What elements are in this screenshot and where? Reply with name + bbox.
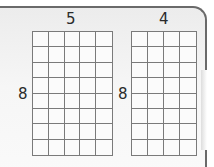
grid-cell xyxy=(164,124,180,139)
grid-cell xyxy=(49,63,65,78)
grid-cell xyxy=(164,94,180,109)
grid-cell xyxy=(49,47,65,62)
grid-cell xyxy=(180,63,196,78)
grid-cell xyxy=(164,140,180,155)
grid-a-column-count: 5 xyxy=(66,12,76,27)
grid-cell xyxy=(49,78,65,93)
grid-cell xyxy=(164,63,180,78)
grid-cell xyxy=(96,124,112,139)
grid-cell xyxy=(132,63,148,78)
grid-cell xyxy=(132,124,148,139)
grid-cell xyxy=(180,109,196,124)
grid-cell xyxy=(132,140,148,155)
grid-cell xyxy=(148,109,164,124)
grid-b-column-count: 4 xyxy=(159,12,169,27)
grid-cell xyxy=(33,47,49,62)
grid-cell xyxy=(164,47,180,62)
grid-cell xyxy=(49,94,65,109)
grid-cell xyxy=(49,140,65,155)
grid-cell xyxy=(132,78,148,93)
grid-cell xyxy=(33,78,49,93)
grid-cell xyxy=(132,94,148,109)
grid-cell xyxy=(49,109,65,124)
grid-cell xyxy=(96,78,112,93)
grid-cell xyxy=(148,124,164,139)
grid-cell xyxy=(180,124,196,139)
grid-b-4x8 xyxy=(131,31,197,156)
grid-cell xyxy=(180,47,196,62)
grid-cell xyxy=(164,32,180,47)
grid-cell xyxy=(49,32,65,47)
grid-cell xyxy=(33,94,49,109)
grid-cell xyxy=(65,124,81,139)
grid-cell xyxy=(80,32,96,47)
grid-cell xyxy=(65,63,81,78)
grid-cell xyxy=(80,94,96,109)
grid-cell xyxy=(80,47,96,62)
grid-cell xyxy=(148,63,164,78)
grid-cell xyxy=(164,109,180,124)
grid-cell xyxy=(96,63,112,78)
grid-cell xyxy=(80,124,96,139)
grid-cell xyxy=(65,109,81,124)
grid-cell xyxy=(80,140,96,155)
grid-cell xyxy=(65,78,81,93)
grid-cell xyxy=(148,32,164,47)
grid-b-row-count: 8 xyxy=(118,87,128,102)
grid-cell xyxy=(180,94,196,109)
grid-cell xyxy=(148,140,164,155)
grid-cell xyxy=(49,124,65,139)
grid-cell xyxy=(33,124,49,139)
grid-cell xyxy=(132,47,148,62)
grid-cell xyxy=(148,94,164,109)
grid-cell xyxy=(80,109,96,124)
grid-cell xyxy=(96,109,112,124)
grid-cell xyxy=(65,94,81,109)
grid-cell xyxy=(33,32,49,47)
grid-cell xyxy=(96,47,112,62)
grid-cell xyxy=(132,109,148,124)
grid-a-5x8 xyxy=(32,31,113,156)
grid-cell xyxy=(65,47,81,62)
grid-cell xyxy=(180,140,196,155)
grid-cell xyxy=(96,94,112,109)
grid-cell xyxy=(96,32,112,47)
grid-cell xyxy=(65,32,81,47)
grid-cell xyxy=(80,63,96,78)
grid-cell xyxy=(148,78,164,93)
grid-cell xyxy=(33,63,49,78)
grid-cell xyxy=(33,109,49,124)
panel-shadow xyxy=(201,70,207,150)
grid-cell xyxy=(180,78,196,93)
grid-cell xyxy=(33,140,49,155)
grid-cell xyxy=(148,47,164,62)
grid-cell xyxy=(180,32,196,47)
grid-cell xyxy=(80,78,96,93)
grid-cell xyxy=(132,32,148,47)
grid-cell xyxy=(96,140,112,155)
grid-cell xyxy=(65,140,81,155)
grid-a-row-count: 8 xyxy=(18,87,28,102)
grid-cell xyxy=(164,78,180,93)
